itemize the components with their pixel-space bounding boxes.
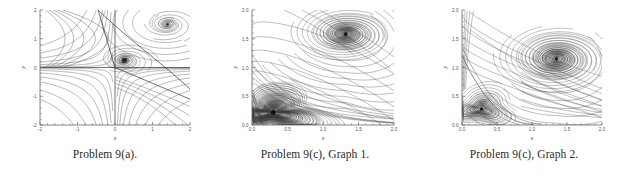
svg-text:1.0: 1.0	[320, 127, 327, 132]
phase-portrait-9a-canvas: 210-1-2-2-1012xy	[0, 0, 210, 150]
svg-text:y: y	[442, 66, 448, 70]
phase-portrait-9a: 210-1-2-2-1012xy	[0, 0, 210, 150]
svg-text:-1: -1	[32, 94, 37, 99]
svg-text:0.5: 0.5	[452, 94, 459, 99]
svg-text:1.5: 1.5	[452, 37, 459, 42]
svg-text:x: x	[321, 135, 325, 141]
svg-text:2.0: 2.0	[452, 8, 459, 13]
svg-text:1.5: 1.5	[355, 127, 362, 132]
phase-portrait-9c-2: 2.01.51.00.50.00.00.51.01.52.0xy	[420, 0, 628, 150]
svg-text:2.0: 2.0	[599, 127, 606, 132]
panel-caption-9c-1: Problem 9(c), Graph 1.	[210, 148, 420, 160]
svg-text:2.0: 2.0	[242, 8, 249, 13]
svg-text:0.5: 0.5	[494, 127, 501, 132]
svg-text:0: 0	[34, 66, 37, 71]
svg-text:1: 1	[34, 37, 37, 42]
svg-text:2.0: 2.0	[391, 127, 398, 132]
svg-text:-2: -2	[32, 123, 37, 128]
figure-panel-problem-9c-graph-1: 2.01.51.00.50.00.00.51.01.52.0xy Problem…	[210, 0, 420, 183]
svg-text:x: x	[113, 135, 117, 141]
figure-panel-problem-9a: 210-1-2-2-1012xy Problem 9(a).	[0, 0, 210, 183]
figure-row: 210-1-2-2-1012xy Problem 9(a). 2.01.51.0…	[0, 0, 628, 183]
panel-caption-9a: Problem 9(a).	[0, 148, 210, 160]
svg-text:y: y	[232, 66, 238, 70]
svg-text:0.0: 0.0	[249, 127, 256, 132]
svg-text:1.0: 1.0	[452, 66, 459, 71]
svg-text:1: 1	[151, 127, 154, 132]
svg-text:1.0: 1.0	[242, 66, 249, 71]
svg-text:2: 2	[34, 8, 37, 13]
svg-text:1.0: 1.0	[529, 127, 536, 132]
svg-text:1.5: 1.5	[242, 37, 249, 42]
svg-text:x: x	[530, 135, 534, 141]
phase-portrait-9c-2-canvas: 2.01.51.00.50.00.00.51.01.52.0xy	[420, 0, 628, 150]
phase-portrait-9c-1-canvas: 2.01.51.00.50.00.00.51.01.52.0xy	[210, 0, 420, 150]
figure-panel-problem-9c-graph-2: 2.01.51.00.50.00.00.51.01.52.0xy Problem…	[420, 0, 628, 183]
phase-portrait-9c-1: 2.01.51.00.50.00.00.51.01.52.0xy	[210, 0, 420, 150]
svg-text:-1: -1	[75, 127, 80, 132]
svg-text:2: 2	[189, 127, 192, 132]
panel-caption-9c-2: Problem 9(c), Graph 2.	[420, 148, 628, 160]
svg-text:-2: -2	[38, 127, 43, 132]
svg-text:0.5: 0.5	[242, 94, 249, 99]
svg-text:y: y	[20, 66, 26, 70]
svg-text:1.5: 1.5	[564, 127, 571, 132]
svg-text:0.0: 0.0	[459, 127, 466, 132]
svg-text:0.5: 0.5	[284, 127, 291, 132]
svg-text:0: 0	[114, 127, 117, 132]
